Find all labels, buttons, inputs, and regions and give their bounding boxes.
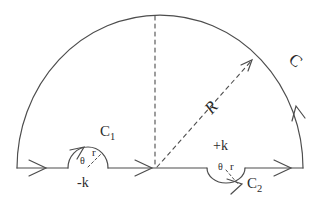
c2-arrow-icon xyxy=(227,179,242,194)
dashed-radius-line xyxy=(157,60,252,167)
c2-angle-label: θ xyxy=(218,162,223,172)
outer-semicircle-arc xyxy=(17,15,303,168)
c1-angle-label: θ xyxy=(80,156,85,166)
small-arc-c1 xyxy=(68,147,108,168)
c1-radius-label: r xyxy=(92,147,96,158)
pole-left-label: -k xyxy=(77,176,89,190)
c2-radius-label: r xyxy=(230,161,234,172)
outer-arc-arrow-icon xyxy=(292,106,305,121)
radius-arrowhead-icon xyxy=(241,60,252,71)
pole-right-label: +k xyxy=(213,139,228,153)
c2-label: C2 xyxy=(247,176,262,195)
c1-label: C1 xyxy=(100,124,115,143)
contour-drawing xyxy=(0,0,327,209)
contour-diagram: C R C1 C2 -k +k r θ θ r xyxy=(0,0,327,209)
